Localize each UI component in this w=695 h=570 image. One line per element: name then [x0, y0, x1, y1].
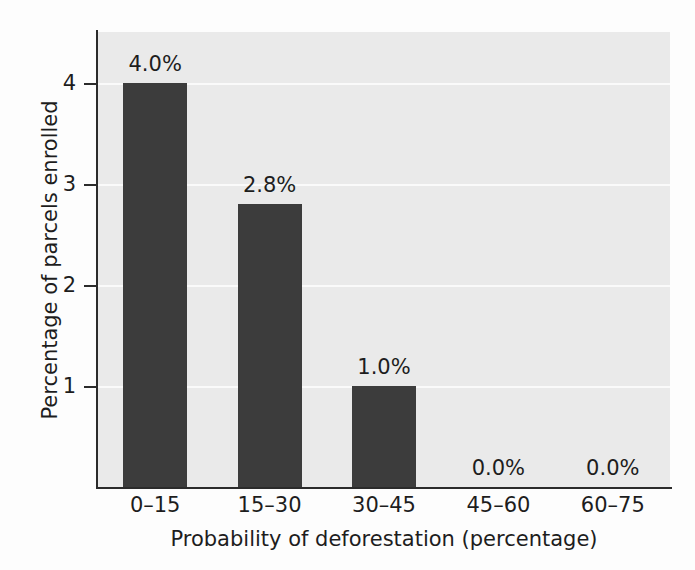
- y-axis-tick-mark: [84, 386, 97, 388]
- x-axis-category-label: 60–75: [581, 493, 645, 517]
- bar-value-label: 0.0%: [472, 456, 525, 480]
- plot-area: [98, 32, 670, 487]
- y-axis-tick-mark: [84, 285, 97, 287]
- y-axis-line: [96, 30, 98, 489]
- x-axis-title: Probability of deforestation (percentage…: [98, 527, 670, 551]
- bar-chart-figure: 1234 Percentage of parcels enrolled Prob…: [0, 0, 695, 570]
- x-axis-line: [96, 487, 672, 489]
- bar-value-label: 0.0%: [586, 456, 639, 480]
- x-axis-category-label: 45–60: [466, 493, 530, 517]
- y-axis-tick-mark: [84, 184, 97, 186]
- bar: [123, 83, 187, 487]
- bar-value-label: 4.0%: [129, 52, 182, 76]
- y-axis-tick-mark: [84, 83, 97, 85]
- bar-value-label: 2.8%: [243, 173, 296, 197]
- y-axis-title: Percentage of parcels enrolled: [38, 50, 62, 470]
- x-axis-category-label: 15–30: [238, 493, 302, 517]
- bar: [238, 204, 302, 487]
- bar-value-label: 1.0%: [357, 355, 410, 379]
- bar: [352, 386, 416, 487]
- x-axis-category-label: 0–15: [130, 493, 181, 517]
- x-axis-category-label: 30–45: [352, 493, 416, 517]
